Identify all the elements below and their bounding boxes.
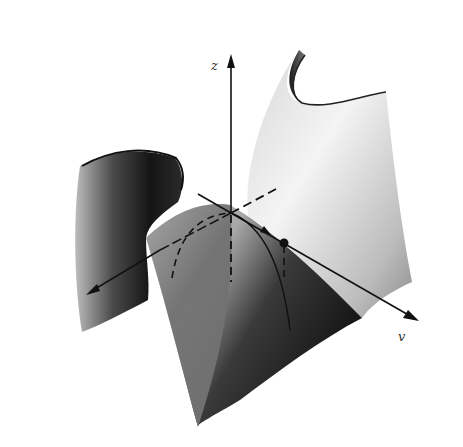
z-axis-arrow-icon: [227, 54, 235, 68]
v-axis-label: v: [398, 329, 406, 344]
v-axis-arrow-icon: [403, 310, 419, 321]
z-axis-label: z: [210, 58, 218, 73]
saddle-surface-figure: z v: [0, 0, 463, 447]
